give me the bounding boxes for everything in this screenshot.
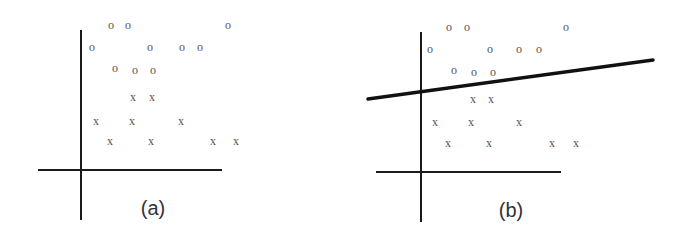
x-marker: x (178, 114, 184, 128)
decision-boundary-line (368, 60, 653, 99)
x-marker: x (149, 90, 155, 104)
x-marker: x (130, 90, 136, 104)
o-marker: o (487, 42, 493, 56)
panel-b: ooooooooooxxxxxxxxx(b) (368, 20, 653, 222)
x-marker: x (549, 136, 555, 150)
o-marker: o (89, 40, 95, 54)
x-marker: x (486, 136, 492, 150)
x-marker: x (233, 134, 239, 148)
o-marker: o (536, 42, 542, 56)
o-marker: o (147, 40, 153, 54)
x-marker: x (210, 134, 216, 148)
o-marker: o (150, 63, 156, 77)
o-marker: o (125, 18, 131, 32)
x-marker: x (468, 115, 474, 129)
x-marker: x (573, 136, 579, 150)
x-marker: x (488, 92, 494, 106)
o-marker: o (132, 63, 138, 77)
o-marker: o (446, 20, 452, 34)
o-marker: o (464, 20, 470, 34)
x-marker: x (445, 136, 451, 150)
o-marker: o (108, 18, 114, 32)
o-marker: o (197, 40, 203, 54)
panel-label: (b) (499, 199, 523, 221)
panel-a: ooooooooooxxxxxxxxx(a) (38, 18, 239, 220)
x-marker: x (129, 114, 135, 128)
o-marker: o (225, 18, 231, 32)
o-marker: o (471, 65, 477, 79)
panel-label: (a) (141, 197, 165, 219)
o-marker: o (490, 65, 496, 79)
x-marker: x (432, 115, 438, 129)
o-marker: o (427, 42, 433, 56)
x-marker: x (516, 115, 522, 129)
o-marker: o (451, 63, 457, 77)
o-marker: o (179, 40, 185, 54)
x-marker: x (93, 114, 99, 128)
x-marker: x (148, 134, 154, 148)
o-marker: o (112, 61, 118, 75)
o-marker: o (516, 42, 522, 56)
x-marker: x (107, 134, 113, 148)
x-marker: x (470, 92, 476, 106)
o-marker: o (563, 20, 569, 34)
scatter-diagram: ooooooooooxxxxxxxxx(a) ooooooooooxxxxxxx… (0, 0, 681, 232)
